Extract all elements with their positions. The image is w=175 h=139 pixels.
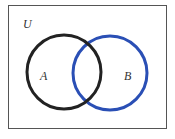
venn-diagram: U A B bbox=[0, 0, 175, 139]
set-a-label: A bbox=[39, 69, 48, 83]
universe-label: U bbox=[23, 17, 33, 31]
universe-frame bbox=[9, 6, 167, 129]
set-b-label: B bbox=[124, 69, 132, 83]
